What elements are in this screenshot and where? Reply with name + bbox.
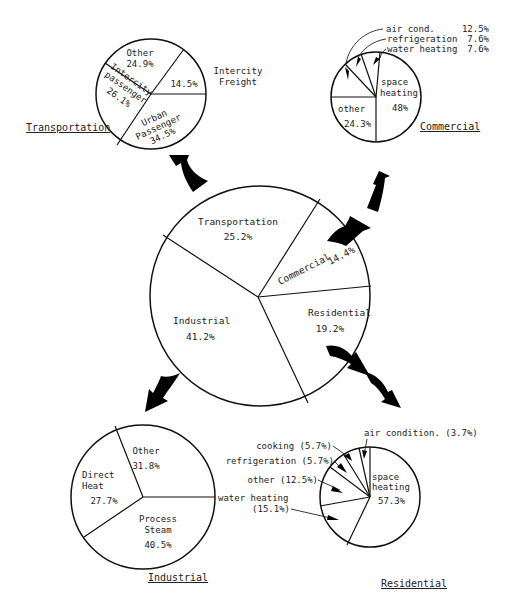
residential-space-pct: 57.3%	[378, 496, 406, 506]
residential-pie: space heating 57.3% air condition. (3.7%…	[218, 428, 478, 589]
commercial-refrig-label: refrigeration	[387, 34, 457, 44]
transport-other-pct: 24.9%	[126, 59, 154, 69]
energy-use-diagram: Transportation 25.2% Commercial 14.4% Re…	[0, 0, 506, 608]
industrial-process-label-2: Steam	[144, 525, 171, 535]
residential-space-label-1: space	[372, 472, 399, 482]
commercial-space-label-2: heating	[380, 88, 418, 98]
arrow-to-residential-lower-icon	[365, 372, 401, 408]
transportation-pie: Other 24.9% 14.5% Intercity Freight Urba…	[26, 39, 263, 151]
commercial-other-label: other	[338, 104, 366, 114]
residential-title: Residential	[381, 578, 447, 589]
industrial-other-pct: 31.8%	[132, 461, 160, 471]
arrow-to-transportation-icon	[169, 155, 208, 192]
arrow-to-industrial-icon	[145, 373, 180, 412]
commercial-air-label: air cond.	[386, 24, 435, 34]
residential-other-label: other (12.5%)	[248, 475, 318, 485]
commercial-other-pct: 24.3%	[344, 119, 372, 129]
industrial-direct-pct: 27.7%	[90, 496, 118, 506]
main-industrial-pct: 41.2%	[186, 331, 215, 342]
commercial-refrig-pct: 7.6%	[467, 34, 489, 44]
transport-freight-label-2: Freight	[219, 77, 257, 87]
industrial-process-pct: 40.5%	[144, 540, 172, 550]
commercial-space-label-1: space	[381, 77, 408, 87]
industrial-direct-label-1: Direct	[82, 470, 115, 480]
residential-space-label-2: heating	[372, 482, 410, 492]
industrial-direct-label-2: Heat	[82, 481, 104, 491]
industrial-pie: Other 31.8% Direct Heat 27.7% Process St…	[71, 425, 215, 583]
residential-cooking-label: cooking (5.7%)	[256, 441, 332, 451]
commercial-pie: space heating 48% other 24.3% air cond. …	[331, 24, 490, 142]
industrial-water-heating-label: water heating	[218, 493, 288, 503]
main-industrial-label: Industrial	[173, 315, 230, 326]
industrial-title: Industrial	[148, 572, 208, 583]
main-residential-pct: 19.2%	[316, 323, 345, 334]
residential-water-pct: (15.1%)	[252, 504, 290, 514]
main-pie: Transportation 25.2% Commercial 14.4% Re…	[150, 186, 371, 406]
transportation-title: Transportation	[26, 122, 110, 133]
residential-air-label: air condition. (3.7%)	[364, 428, 478, 438]
main-residential-label: Residential	[308, 307, 371, 318]
commercial-air-pct: 12.5%	[462, 24, 490, 34]
main-transportation-label: Transportation	[198, 216, 278, 227]
industrial-process-label-1: Process	[139, 514, 177, 524]
commercial-water-label: water heating	[387, 44, 457, 54]
transport-freight-pct: 14.5%	[170, 79, 198, 89]
main-transportation-pct: 25.2%	[224, 231, 253, 242]
transport-other-label: Other	[126, 48, 154, 58]
arrow-to-commercial-upper-icon	[367, 171, 390, 212]
industrial-other-label: Other	[132, 446, 160, 456]
residential-refrig-label: refrigeration (5.7%)	[226, 456, 334, 466]
transport-freight-label-1: Intercity	[214, 66, 263, 76]
commercial-title: Commercial	[420, 121, 480, 132]
commercial-water-pct: 7.6%	[467, 44, 489, 54]
commercial-space-pct: 48%	[392, 103, 409, 113]
